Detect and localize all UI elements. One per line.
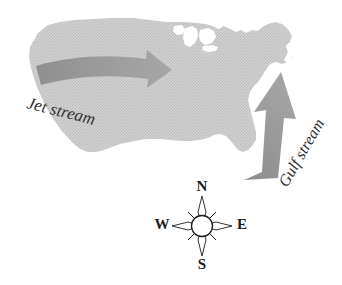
compass-hub xyxy=(192,216,213,237)
map-figure: Jet stream Gulf stream N xyxy=(0,0,342,285)
compass-label-north: N xyxy=(197,178,208,194)
gulf-of-mexico-cutout xyxy=(134,135,242,188)
compass-label-east: E xyxy=(237,216,247,232)
compass-rose[interactable]: N E S W xyxy=(155,178,248,272)
compass-label-south: S xyxy=(198,256,206,272)
us-outline-path xyxy=(29,18,292,152)
map-canvas: Jet stream Gulf stream N xyxy=(0,0,342,285)
compass-label-west: W xyxy=(155,216,170,232)
